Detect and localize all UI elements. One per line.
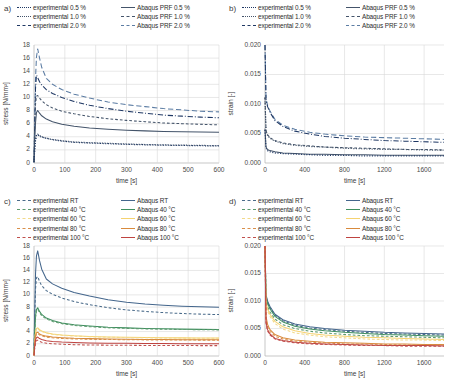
legend-item-label: experimental 60 °C <box>258 215 311 222</box>
legend-item-label: experimental 100 °C <box>33 234 89 241</box>
x-axis-tick-label: 0 <box>20 359 48 366</box>
legend-line-swatch-icon <box>346 218 360 219</box>
legend-line-swatch-icon <box>17 25 31 26</box>
legend-item-label: Abaqus PRF 2.0 % <box>362 22 415 29</box>
legend-line-swatch-icon <box>121 7 135 8</box>
legend-item: experimental 0.5 % <box>242 3 344 12</box>
legend-item: Abaqus PRF 0.5 % <box>346 3 448 12</box>
legend-item: experimental 40 °C <box>17 205 119 214</box>
data-series-line <box>265 130 444 156</box>
legend-line-swatch-icon <box>242 25 256 26</box>
legend-item-label: Abaqus RT <box>362 197 393 204</box>
x-axis-tick-label: 1200 <box>370 166 398 173</box>
legend-line-swatch-icon <box>121 237 135 238</box>
x-axis-title: time [s] <box>34 177 219 184</box>
legend-item-label: Abaqus PRF 1.0 % <box>362 13 415 20</box>
legend-item: experimental 80 °C <box>242 224 344 233</box>
legend-item-label: experimental 2.0 % <box>258 22 311 29</box>
panel-d-plot: 0.0000.0050.0100.0150.020040080012001600… <box>225 242 450 386</box>
figure-stress-strain-relaxation: a) experimental 0.5 %Abaqus PRF 0.5 %exp… <box>0 0 450 386</box>
x-axis-tick-label: 1600 <box>410 359 438 366</box>
x-axis-tick-label: 200 <box>82 166 110 173</box>
data-series-line <box>265 246 444 335</box>
x-axis-tick-label: 400 <box>143 166 171 173</box>
legend-line-swatch-icon <box>242 200 256 201</box>
data-series-line <box>265 45 444 142</box>
legend-item: Abaqus RT <box>121 196 223 205</box>
legend-line-swatch-icon <box>17 237 31 238</box>
x-axis-tick-label: 400 <box>143 359 171 366</box>
legend-item-label: Abaqus 40 °C <box>362 206 400 213</box>
legend-line-swatch-icon <box>346 237 360 238</box>
panel-a-legend: experimental 0.5 %Abaqus PRF 0.5 %experi… <box>17 3 223 31</box>
legend-item: Abaqus PRF 0.5 % <box>121 3 223 12</box>
legend-item: Abaqus 100 °C <box>121 233 223 242</box>
legend-line-swatch-icon <box>242 16 256 17</box>
legend-line-swatch-icon <box>346 228 360 229</box>
data-series-line <box>265 98 444 150</box>
legend-item-label: experimental RT <box>258 197 303 204</box>
legend-item: Abaqus 80 °C <box>346 224 448 233</box>
legend-line-swatch-icon <box>346 209 360 210</box>
legend-item-label: Abaqus PRF 0.5 % <box>362 4 415 11</box>
legend-item: Abaqus 40 °C <box>121 205 223 214</box>
legend-item: experimental 60 °C <box>242 214 344 223</box>
panel-d: d) experimental RTAbaqus RTexperimental … <box>225 193 450 386</box>
legend-item: Abaqus 40 °C <box>346 205 448 214</box>
panel-c-plot: 0246810121416180100200300400500600time [… <box>0 242 225 386</box>
legend-item-label: experimental 80 °C <box>258 225 311 232</box>
legend-line-swatch-icon <box>346 16 360 17</box>
legend-line-swatch-icon <box>121 228 135 229</box>
panel-c-legend: experimental RTAbaqus RTexperimental 40 … <box>17 196 223 242</box>
legend-line-swatch-icon <box>242 237 256 238</box>
y-axis-title: stress [N/mm²] <box>2 45 9 163</box>
legend-item-label: Abaqus 80 °C <box>362 225 400 232</box>
x-axis-tick-label: 800 <box>331 166 359 173</box>
legend-item-label: Abaqus 40 °C <box>137 206 175 213</box>
legend-item: Abaqus RT <box>346 196 448 205</box>
legend-line-swatch-icon <box>346 200 360 201</box>
x-axis-title: time [s] <box>34 370 219 377</box>
x-axis-tick-label: 400 <box>291 359 319 366</box>
legend-item-label: experimental 0.5 % <box>33 4 86 11</box>
x-axis-tick-label: 1600 <box>410 166 438 173</box>
x-axis-tick-label: 400 <box>291 166 319 173</box>
x-axis-tick-label: 500 <box>174 166 202 173</box>
legend-item-label: experimental 0.5 % <box>258 4 311 11</box>
panel-b: b) experimental 0.5 %Abaqus PRF 0.5 %exp… <box>225 0 450 193</box>
x-axis-tick-label: 1200 <box>370 359 398 366</box>
legend-item-label: Abaqus 60 °C <box>362 215 400 222</box>
legend-line-swatch-icon <box>17 209 31 210</box>
y-axis-title: strain [-] <box>227 45 234 163</box>
legend-item-label: Abaqus 100 °C <box>362 234 404 241</box>
legend-item-label: experimental 40 °C <box>258 206 311 213</box>
legend-item: experimental 2.0 % <box>17 21 119 30</box>
legend-item-label: experimental 1.0 % <box>33 13 86 20</box>
x-axis-tick-label: 0 <box>251 166 279 173</box>
legend-item: experimental 1.0 % <box>242 12 344 21</box>
x-axis-tick-label: 0 <box>251 359 279 366</box>
legend-item: experimental 1.0 % <box>17 12 119 21</box>
legend-item: Abaqus 80 °C <box>121 224 223 233</box>
legend-item: Abaqus 60 °C <box>121 214 223 223</box>
panel-b-letter: b) <box>229 4 236 13</box>
legend-line-swatch-icon <box>121 16 135 17</box>
panel-d-letter: d) <box>229 197 236 206</box>
panel-d-legend: experimental RTAbaqus RTexperimental 40 … <box>242 196 448 242</box>
legend-item-label: Abaqus PRF 0.5 % <box>137 4 190 11</box>
legend-item: Abaqus PRF 2.0 % <box>346 21 448 30</box>
legend-item-label: experimental 60 °C <box>33 215 86 222</box>
legend-item: experimental 60 °C <box>17 214 119 223</box>
data-series-line <box>265 246 444 341</box>
legend-item: Abaqus PRF 2.0 % <box>121 21 223 30</box>
legend-item-label: experimental RT <box>33 197 78 204</box>
y-axis-title: stress [N/mm²] <box>2 246 9 356</box>
legend-item-label: Abaqus 80 °C <box>137 225 175 232</box>
legend-line-swatch-icon <box>17 16 31 17</box>
x-axis-tick-label: 300 <box>113 166 141 173</box>
legend-line-swatch-icon <box>17 200 31 201</box>
panel-c-letter: c) <box>4 197 11 206</box>
legend-item-label: experimental 2.0 % <box>33 22 86 29</box>
legend-item: experimental 40 °C <box>242 205 344 214</box>
legend-item-label: experimental 80 °C <box>33 225 86 232</box>
